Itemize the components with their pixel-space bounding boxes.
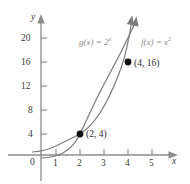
graph-figure: y x 0 4 8 12 16 20 1 2 3 4 5 (2, 4) (4, …: [0, 0, 190, 184]
function-label-f-text: f(x) = x: [141, 37, 168, 47]
function-label-g: g(x) = 2x: [79, 36, 111, 47]
x-tick-label-3: 3: [101, 159, 106, 169]
origin-tick-label: 0: [30, 158, 35, 168]
x-tick-label-4: 4: [125, 159, 130, 169]
function-label-g-text: g(x) = 2: [79, 37, 109, 47]
y-tick-label-16: 16: [21, 58, 31, 68]
point-annotation-2-4: (2, 4): [86, 130, 107, 140]
data-point-2-4: [77, 131, 84, 138]
x-axis-label: x: [172, 157, 176, 167]
x-tick-label-2: 2: [77, 159, 82, 169]
x-axis-ticks: [56, 149, 152, 155]
curve-g-arrowhead: [127, 16, 134, 26]
function-label-g-exponent: x: [109, 35, 112, 42]
x-tick-label-1: 1: [53, 159, 58, 169]
y-axis-arrowhead: [37, 14, 44, 24]
function-label-f-exponent: 2: [168, 35, 171, 42]
y-tick-label-12: 12: [21, 82, 31, 92]
x-tick-label-5: 5: [149, 159, 154, 169]
y-tick-label-8: 8: [28, 106, 33, 116]
coordinate-plane-svg: [0, 0, 190, 184]
function-label-f: f(x) = x2: [141, 36, 171, 47]
y-tick-label-4: 4: [28, 130, 33, 140]
point-annotation-4-16: (4, 16): [134, 59, 159, 69]
data-point-4-16: [125, 59, 132, 66]
y-axis-label: y: [31, 13, 35, 23]
y-axis-ticks: [41, 38, 47, 134]
y-tick-label-20: 20: [21, 34, 31, 44]
